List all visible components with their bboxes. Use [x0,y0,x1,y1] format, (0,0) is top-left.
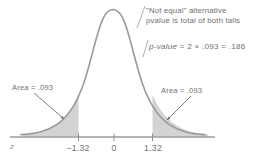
pvalue-formula-lhs: p-value [149,42,177,51]
pvalue-formula: p-value = 2 × .093 = .186 [149,43,245,52]
left-area-label: Area = .093 [12,84,53,92]
axis-variable-label: z [10,142,14,151]
pvalue-formula-rhs: = 2 × .093 = .186 [177,42,245,51]
leader-line-formula [143,40,148,57]
normal-curve-two-tailed-figure: "Not equal" alternative pvalue is total … [0,0,258,159]
arrow-left-area [34,93,64,119]
arrow-right-area [167,96,191,120]
normal-curve [21,10,205,135]
alt-note-line-2: pvalue is total of both tails [146,17,240,25]
alternative-hypothesis-note: "Not equal" alternative pvalue is total … [146,7,240,27]
x-tick-label-pos-1-32: 1.32 [144,143,162,153]
alt-note-line-1: "Not equal" alternative [146,7,240,15]
x-tick-label-zero: 0 [111,143,116,153]
right-area-label: Area = .093 [161,87,202,95]
left-tail-shading [23,95,79,137]
leader-line-alt-note [137,6,145,28]
x-tick-label-neg-1-32: −1.32 [66,143,89,153]
